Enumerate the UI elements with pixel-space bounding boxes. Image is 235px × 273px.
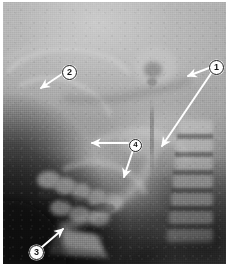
radiograph-image — [3, 2, 226, 264]
annotation-marker-3: 3 — [29, 245, 44, 260]
annotation-marker-4: 4 — [129, 139, 142, 152]
annotation-marker-2: 2 — [62, 65, 77, 80]
annotation-marker-1: 1 — [209, 60, 224, 75]
radiograph-figure: 1 2 3 4 — [0, 0, 235, 273]
film-grain-texture — [3, 2, 226, 264]
